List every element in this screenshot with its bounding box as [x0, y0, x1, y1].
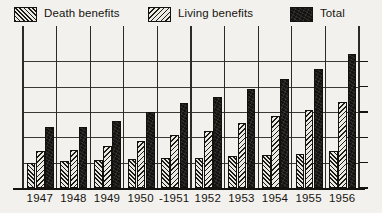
bar-death-benefits-1951 [161, 158, 170, 188]
x-axis-label-1953: 1953 [225, 192, 259, 204]
bar-living-benefits-1949 [103, 146, 112, 188]
x-axis-label-1956: 1956 [325, 192, 359, 204]
bar-total-1954 [280, 79, 289, 188]
bar-group-1951 [157, 36, 191, 188]
bar-total-1949 [112, 121, 121, 188]
bar-total-1953 [247, 89, 256, 188]
legend-item-death-benefits: Death benefits [14, 3, 120, 25]
bar-living-benefits-1954 [271, 116, 280, 188]
legend-swatch-living-benefits [148, 7, 171, 22]
bar-living-benefits-1951 [170, 135, 179, 188]
bar-total-1955 [314, 69, 323, 188]
bar-death-benefits-1952 [195, 158, 204, 188]
plot-area [23, 36, 359, 188]
x-axis-label-1954: 1954 [258, 192, 292, 204]
bar-group-1954 [258, 36, 292, 188]
bar-group-1956 [325, 36, 359, 188]
bar-group-1949 [90, 36, 124, 188]
bar-group-1952 [191, 36, 225, 188]
bar-living-benefits-1955 [305, 110, 314, 189]
legend-label-total: Total [320, 8, 345, 20]
bar-total-1956 [348, 54, 357, 188]
bar-group-1948 [57, 36, 91, 188]
axis-tick-right [359, 61, 368, 63]
legend-swatch-total [290, 7, 313, 22]
bar-living-benefits-1956 [338, 102, 347, 188]
x-axis-label-1955: 1955 [292, 192, 326, 204]
bar-death-benefits-1953 [228, 156, 237, 188]
x-axis-labels: 1947194819491950-19511952195319541955195… [23, 192, 359, 210]
bar-living-benefits-1952 [204, 131, 213, 188]
bar-living-benefits-1953 [238, 123, 247, 188]
bar-living-benefits-1948 [70, 150, 79, 188]
bar-total-1951 [180, 103, 189, 188]
x-axis-label-1952: 1952 [191, 192, 225, 204]
bar-death-benefits-1947 [27, 163, 36, 188]
bar-total-1952 [213, 97, 222, 188]
x-axis-label-1947: 1947 [23, 192, 57, 204]
legend-swatch-death-benefits [14, 7, 37, 22]
bar-death-benefits-1949 [94, 160, 103, 188]
bar-death-benefits-1956 [329, 151, 338, 188]
bar-group-1953 [225, 36, 259, 188]
legend-label-living-benefits: Living benefits [178, 8, 253, 20]
axis-tick-right [359, 86, 368, 88]
bar-living-benefits-1947 [36, 151, 45, 188]
bar-death-benefits-1948 [60, 161, 69, 188]
bar-living-benefits-1950 [137, 141, 146, 188]
legend-label-death-benefits: Death benefits [44, 8, 120, 20]
bar-group-1955 [292, 36, 326, 188]
x-axis-line [13, 188, 365, 190]
bar-death-benefits-1955 [296, 154, 305, 188]
bar-death-benefits-1954 [262, 155, 271, 188]
x-axis-label-1948: 1948 [57, 192, 91, 204]
legend-item-total: Total [290, 3, 345, 25]
x-axis-label-1951: -1951 [157, 192, 191, 204]
axis-tick-right [359, 111, 368, 113]
axis-tick-right [359, 137, 368, 139]
bar-total-1947 [45, 127, 54, 188]
bar-total-1950 [146, 112, 155, 188]
bar-total-1948 [79, 127, 88, 188]
axis-tick-right [359, 162, 368, 164]
x-axis-label-1949: 1949 [90, 192, 124, 204]
bar-death-benefits-1950 [128, 159, 137, 188]
bar-group-1950 [124, 36, 158, 188]
x-axis-label-1950: 1950 [124, 192, 158, 204]
legend-item-living-benefits: Living benefits [148, 3, 253, 25]
bar-group-1947 [23, 36, 57, 188]
bar-chart: Death benefits Living benefits Total 194… [0, 0, 382, 213]
bars-layer [23, 36, 359, 188]
